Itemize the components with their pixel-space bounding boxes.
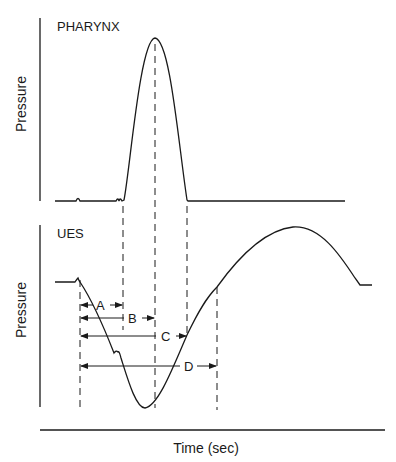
time-axis: Time (sec) [40,430,385,456]
interval-d-label: D [184,359,193,374]
pharynx-pressure-curve [55,38,345,201]
swallow-pressure-diagram: PHARYNX Pressure UES Pressure [0,0,396,462]
time-axis-label: Time (sec) [173,440,239,456]
pharynx-title: PHARYNX [57,19,120,34]
ues-panel: UES Pressure [13,225,372,408]
pharynx-y-label: Pressure [13,76,29,132]
interval-a-label: A [96,298,105,313]
reference-lines [80,44,217,412]
interval-c-label: C [161,329,170,344]
interval-arrows [81,305,216,366]
ues-y-label: Pressure [13,282,29,338]
pharynx-panel: PHARYNX Pressure [13,18,345,201]
ues-pressure-curve [55,227,372,408]
interval-b-label: B [128,311,137,326]
ues-title: UES [57,226,84,241]
